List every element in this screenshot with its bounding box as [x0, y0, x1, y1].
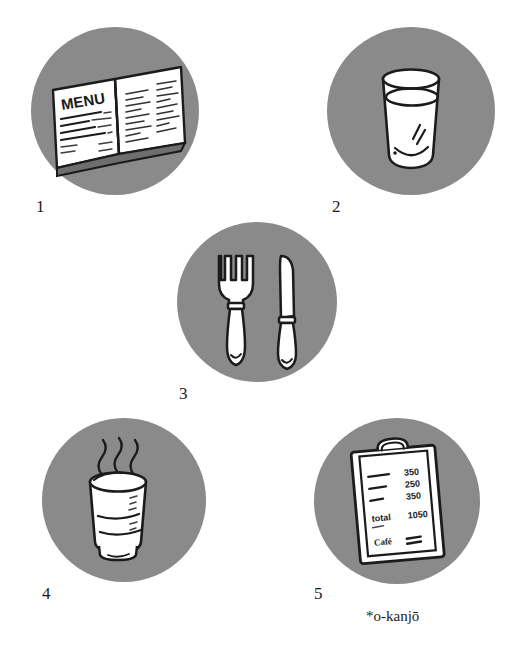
bill-total-label: total: [371, 512, 391, 524]
panel-number: 1: [36, 198, 45, 215]
panel-water-glass: 2: [327, 27, 507, 207]
menu-book-illustration: MENU: [31, 27, 211, 207]
water-glass-illustration: [327, 27, 507, 207]
panel-number: 3: [179, 385, 188, 402]
panel-hot-drink: 4: [42, 418, 218, 598]
fork-and-knife-illustration: [177, 222, 349, 394]
panel-menu: MENU: [31, 27, 211, 207]
footnote-o-kanjo: *o-kanjō: [366, 608, 419, 625]
panel-number: 5: [314, 585, 323, 602]
bill-price-1: 350: [403, 466, 419, 477]
knife-icon: [278, 256, 296, 369]
bill-clipboard-illustration: 350 250 350 total 1050 Café: [314, 418, 492, 596]
illustration-sheet: MENU: [0, 0, 531, 656]
bill-price-2: 250: [405, 478, 421, 489]
bill-footer-left: Café: [373, 536, 392, 548]
panel-bill: 350 250 350 total 1050 Café: [314, 418, 492, 600]
fork-icon: [219, 256, 253, 365]
panel-number: 4: [42, 585, 51, 602]
steam-icon: [99, 438, 138, 475]
panel-number: 2: [332, 198, 341, 215]
panel-cutlery: 3: [177, 222, 349, 400]
bill-total-value: 1050: [407, 509, 428, 521]
steaming-cup-illustration: [42, 418, 218, 594]
bill-price-3: 350: [406, 490, 422, 501]
